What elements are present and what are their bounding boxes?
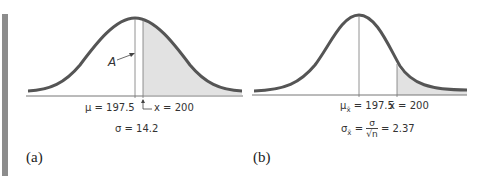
arrowhead-icon <box>141 99 145 103</box>
panel-a-x-label: x = 200 <box>154 102 194 113</box>
panel-b-label: (b) <box>253 149 271 166</box>
panel-a-label: (a) <box>26 149 43 166</box>
panel-a-chart <box>26 18 243 109</box>
panel-b-curve <box>254 15 467 91</box>
sigma-over-root-n-fraction: σ √n <box>366 118 377 139</box>
panel-a-mu-label: μ = 197.5 <box>85 102 135 113</box>
panel-a-shaded-area <box>143 19 242 95</box>
panel-b-mu-label: μx̄ = 197.5 <box>340 100 394 114</box>
panel-b-sigma-label: σx̄ = σ √n = 2.37 <box>341 118 415 139</box>
panel-a-area-label: A <box>108 55 116 69</box>
panel-a-sigma-label: σ = 14.2 <box>115 123 158 134</box>
normal-curves-figure <box>0 0 487 179</box>
panel-b-xbar-label: x̄ = 200 <box>389 100 429 111</box>
panel-b-chart <box>252 15 467 97</box>
